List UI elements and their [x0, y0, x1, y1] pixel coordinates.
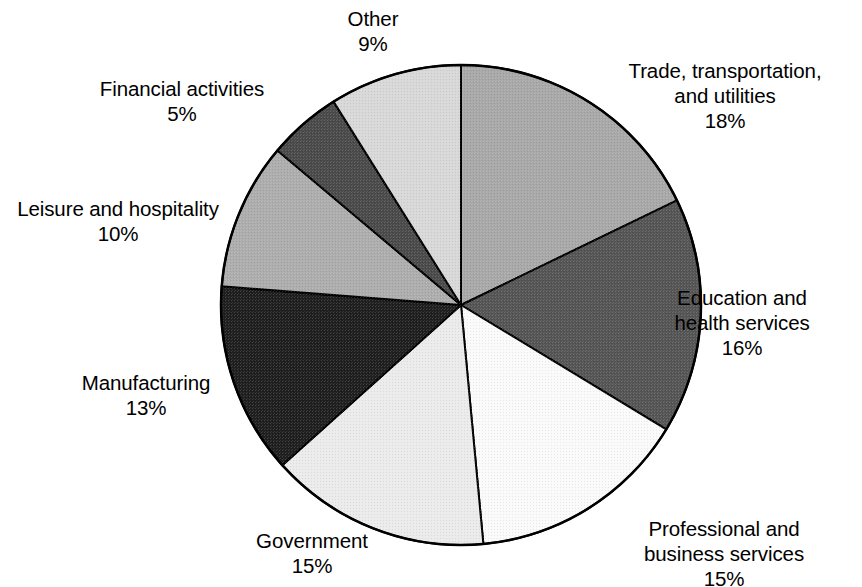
- slice-label-other: Other 9%: [288, 6, 458, 56]
- slice-label-professional-name-line1: Professional and: [604, 516, 844, 541]
- slice-label-education-name-line2: health services: [618, 310, 862, 335]
- slice-label-trade-name-line2: and utilities: [600, 83, 850, 108]
- slice-label-trade: Trade, transportation, and utilities 18%: [600, 58, 850, 133]
- slice-label-financial-value: 5%: [62, 101, 302, 126]
- slice-label-financial-name: Financial activities: [62, 76, 302, 101]
- slice-label-education-value: 16%: [618, 335, 862, 360]
- slice-label-government-name: Government: [212, 528, 412, 553]
- slice-label-manufacturing-name: Manufacturing: [46, 370, 246, 395]
- slice-label-financial: Financial activities 5%: [62, 76, 302, 126]
- slice-label-manufacturing: Manufacturing 13%: [46, 370, 246, 420]
- slice-label-other-value: 9%: [288, 31, 458, 56]
- slice-label-professional: Professional and business services 15%: [604, 516, 844, 587]
- slice-label-professional-value: 15%: [604, 566, 844, 587]
- slice-label-leisure-value: 10%: [0, 221, 238, 246]
- slice-label-government: Government 15%: [212, 528, 412, 578]
- slice-label-professional-name-line2: business services: [604, 541, 844, 566]
- slice-label-manufacturing-value: 13%: [46, 395, 246, 420]
- slice-label-leisure-name: Leisure and hospitality: [0, 196, 238, 221]
- slice-label-government-value: 15%: [212, 553, 412, 578]
- slice-label-education-name-line1: Education and: [618, 285, 862, 310]
- slice-label-trade-name-line1: Trade, transportation,: [600, 58, 850, 83]
- slice-label-other-name: Other: [288, 6, 458, 31]
- slice-label-education: Education and health services 16%: [618, 285, 862, 360]
- slice-label-trade-value: 18%: [600, 108, 850, 133]
- slice-label-leisure: Leisure and hospitality 10%: [0, 196, 238, 246]
- pie-chart: Other 9% Trade, transportation, and util…: [0, 0, 862, 587]
